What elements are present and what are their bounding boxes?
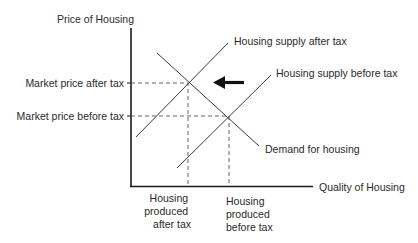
quantity-before-line-1: Housing bbox=[226, 195, 265, 207]
quantity-before-line-2: produced bbox=[226, 208, 270, 220]
dashed-guide-after-tax bbox=[131, 83, 188, 186]
label-demand: Demand for housing bbox=[265, 143, 360, 155]
quantity-after-line-2: produced bbox=[144, 205, 188, 217]
price-label-before-tax: Market price before tax bbox=[17, 110, 125, 122]
label-supply-after-tax: Housing supply after tax bbox=[234, 35, 347, 47]
quantity-before-line-3: before tax bbox=[226, 221, 273, 233]
supply-before-tax-curve bbox=[177, 75, 271, 168]
shift-left-arrow-icon bbox=[213, 76, 244, 89]
supply-demand-diagram: Price of Housing Quality of Housing Mark… bbox=[0, 0, 418, 243]
quantity-label-after-tax: Housing produced after tax bbox=[144, 192, 191, 230]
x-axis-label: Quality of Housing bbox=[319, 181, 405, 193]
quantity-after-line-1: Housing bbox=[150, 192, 189, 204]
supply-after-tax-curve bbox=[136, 43, 228, 137]
quantity-after-line-3: after tax bbox=[153, 218, 192, 230]
y-axis-label: Price of Housing bbox=[57, 13, 134, 25]
price-label-after-tax: Market price after tax bbox=[25, 77, 124, 89]
quantity-label-before-tax: Housing produced before tax bbox=[226, 195, 273, 233]
label-supply-before-tax: Housing supply before tax bbox=[276, 67, 398, 79]
